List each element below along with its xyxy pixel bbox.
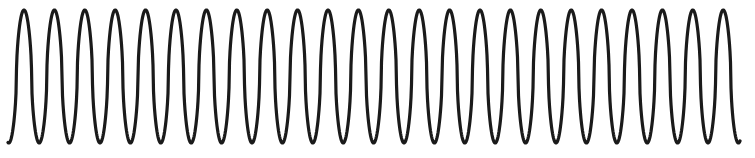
waveform-figure: High-frequency oscillating waveform trac…	[0, 0, 755, 158]
waveform-chart: High-frequency oscillating waveform trac…	[0, 0, 755, 158]
